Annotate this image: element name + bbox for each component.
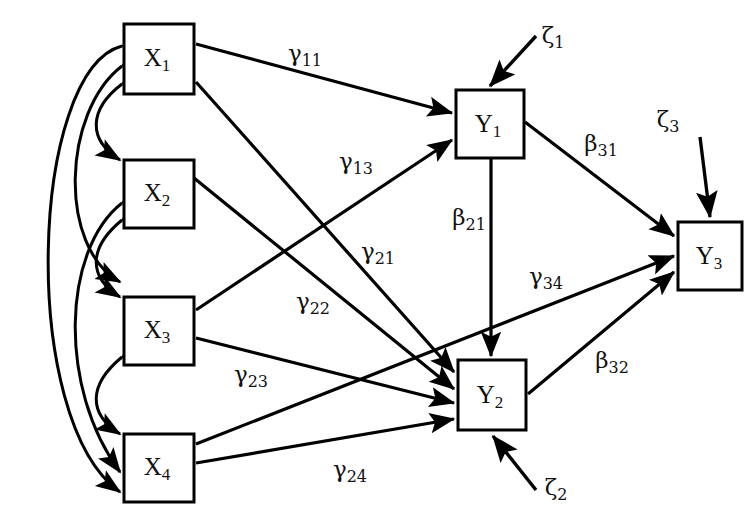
correlation-curve-x3-x4 bbox=[96, 357, 122, 434]
disturbance-arrow-zeta1 bbox=[490, 36, 536, 86]
coefficient-label-gamma24: γ24 bbox=[333, 456, 367, 486]
coefficient-label-gamma13: γ13 bbox=[339, 148, 373, 178]
correlation-curve-x1-x4 bbox=[48, 46, 122, 492]
path-arrow-gamma24 bbox=[196, 419, 454, 463]
node-labels: X1 X2 X3 X4 Y1 Y2 Y3 bbox=[144, 44, 723, 484]
structural-paths bbox=[194, 44, 674, 463]
disturbance-label-zeta3: ζ3 bbox=[657, 106, 680, 136]
coefficient-label-gamma34: γ34 bbox=[529, 263, 563, 293]
coefficient-label-beta21: β21 bbox=[452, 204, 486, 234]
coefficient-label-gamma21: γ21 bbox=[361, 238, 395, 268]
diagram-svg: X1 X2 X3 X4 Y1 Y2 Y3 γ11 bbox=[0, 0, 753, 524]
coefficient-label-gamma22: γ22 bbox=[296, 288, 330, 318]
path-arrow-gamma21 bbox=[196, 82, 454, 372]
coefficient-label-beta31: β31 bbox=[584, 130, 618, 160]
path-arrow-beta31 bbox=[525, 122, 674, 236]
path-diagram-canvas: X1 X2 X3 X4 Y1 Y2 Y3 γ11 bbox=[0, 0, 753, 524]
disturbance-label-zeta2: ζ2 bbox=[545, 474, 568, 504]
node-boxes bbox=[124, 24, 742, 502]
disturbance-label-zeta1: ζ1 bbox=[542, 22, 565, 52]
path-arrow-gamma11 bbox=[196, 44, 452, 113]
coefficient-label-gamma23: γ23 bbox=[234, 361, 268, 391]
disturbance-arrow-zeta3 bbox=[700, 137, 710, 217]
correlation-curve-x2-x3 bbox=[96, 220, 122, 297]
coefficient-label-gamma11: γ11 bbox=[288, 40, 322, 70]
disturbance-arrow-zeta2 bbox=[493, 436, 536, 490]
correlation-curve-x1-x2 bbox=[96, 84, 122, 160]
coefficient-label-beta32: β32 bbox=[595, 347, 629, 377]
correlation-curves bbox=[48, 46, 122, 492]
